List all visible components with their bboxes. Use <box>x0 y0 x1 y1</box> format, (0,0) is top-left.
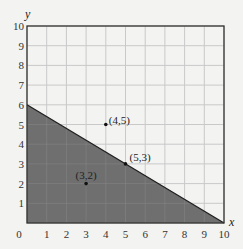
x-tick-label: 6 <box>142 228 148 240</box>
x-tick-label: 0 <box>16 228 22 240</box>
x-tick-label: 5 <box>123 228 129 240</box>
x-tick-label: 8 <box>182 228 188 240</box>
data-point-label: (4,5) <box>109 114 130 127</box>
data-point-marker <box>124 162 128 166</box>
x-tick-label: 9 <box>202 228 208 240</box>
data-point-marker <box>84 182 88 186</box>
x-axis-ticks: 012345678910 <box>16 228 230 240</box>
x-axis-label: x <box>228 215 235 229</box>
data-point-label: (5,3) <box>130 151 151 164</box>
y-tick-label: 1 <box>19 197 25 209</box>
x-tick-label: 3 <box>83 228 89 240</box>
y-tick-label: 5 <box>19 119 25 131</box>
x-tick-label: 10 <box>219 228 231 240</box>
x-tick-label: 2 <box>64 228 70 240</box>
y-tick-label: 10 <box>13 20 25 32</box>
y-axis-label: y <box>24 7 31 21</box>
x-tick-label: 4 <box>103 228 109 240</box>
y-axis-ticks: 12345678910 <box>13 20 25 209</box>
x-tick-label: 1 <box>44 228 50 240</box>
x-tick-label: 7 <box>162 228 168 240</box>
y-tick-label: 9 <box>19 40 25 52</box>
chart-canvas: 012345678910 12345678910 x y (4,5)(5,3)(… <box>0 0 243 249</box>
y-tick-label: 7 <box>19 79 25 91</box>
y-tick-label: 6 <box>19 99 25 111</box>
data-point-label: (3,2) <box>76 169 97 182</box>
y-tick-label: 8 <box>19 59 25 71</box>
y-tick-label: 4 <box>19 138 25 150</box>
data-point-marker <box>104 123 108 127</box>
y-tick-label: 3 <box>19 158 25 170</box>
y-tick-label: 2 <box>19 178 25 190</box>
